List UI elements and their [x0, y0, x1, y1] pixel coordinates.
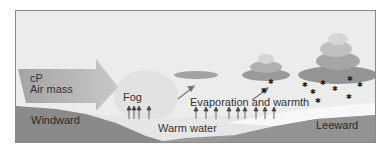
windward-label: Windward [31, 114, 80, 126]
svg-text:✱: ✱ [315, 97, 321, 105]
svg-text:✱: ✱ [268, 78, 274, 86]
cloud-small [174, 71, 218, 79]
svg-text:✱: ✱ [310, 88, 316, 96]
cloud-large [298, 33, 375, 84]
svg-text:✱: ✱ [357, 81, 363, 89]
svg-text:✱: ✱ [347, 75, 353, 83]
lake-effect-diagram: ✱ ✱ ✱ ✱ ✱ ✱ ✱ ✱ ✱ ✱ cP Air mass Fog Evap… [15, 10, 376, 143]
svg-text:✱: ✱ [320, 79, 326, 87]
fog-label: Fog [123, 91, 142, 103]
svg-text:✱: ✱ [346, 93, 352, 101]
svg-text:✱: ✱ [332, 85, 338, 93]
cloud-medium [242, 54, 290, 81]
air-mass-label: Air mass [30, 83, 73, 95]
svg-text:✱: ✱ [302, 81, 308, 89]
warm-water-label: Warm water [158, 122, 217, 134]
svg-text:✱: ✱ [261, 87, 267, 95]
leeward-label: Leeward [316, 119, 358, 131]
evaporation-label: Evaporation and warmth [190, 96, 309, 108]
